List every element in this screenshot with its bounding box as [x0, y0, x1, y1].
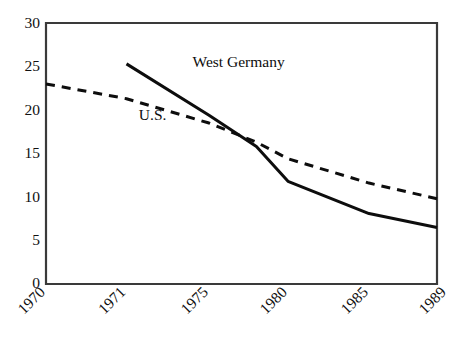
series-label-west-germany: West Germany — [193, 53, 285, 70]
line-chart: 30 25 20 15 10 5 0 1970 1971 1975 1980 1… — [0, 0, 461, 339]
y-tick-label: 10 — [25, 188, 41, 205]
y-tick-label: 5 — [32, 231, 40, 248]
series-label-us: U.S. — [139, 106, 167, 123]
chart-background — [0, 0, 461, 339]
y-tick-label: 15 — [25, 144, 41, 161]
chart-container: 30 25 20 15 10 5 0 1970 1971 1975 1980 1… — [0, 0, 461, 339]
y-tick-label: 25 — [25, 57, 41, 74]
y-tick-label: 30 — [25, 14, 41, 31]
y-tick-label: 20 — [25, 101, 41, 118]
